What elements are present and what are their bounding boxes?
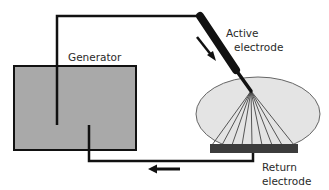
return-electrode-plate xyxy=(210,144,298,153)
return-electrode-label-line2: electrode xyxy=(262,175,311,188)
arrow-left-icon xyxy=(148,165,180,174)
generator-label: Generator xyxy=(68,51,121,64)
active-electrode-label-line2: electrode xyxy=(234,41,283,54)
active-electrode-label-line1: Active xyxy=(226,27,258,40)
tissue-ellipse xyxy=(196,77,320,151)
return-electrode-label-line1: Return xyxy=(262,161,297,174)
generator-box xyxy=(14,66,136,150)
